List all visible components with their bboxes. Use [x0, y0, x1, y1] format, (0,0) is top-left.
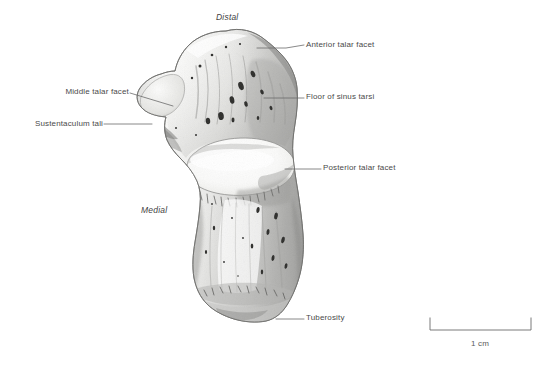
- scale-bar-label: 1 cm: [471, 340, 489, 348]
- label-sustentaculum-tali: Sustentaculum tali: [35, 120, 103, 128]
- orientation-label-distal: Distal: [216, 13, 238, 22]
- scale-bar-graphic: [430, 318, 531, 330]
- orientation-label-medial: Medial: [141, 206, 167, 215]
- label-posterior-talar-facet: Posterior talar facet: [323, 164, 396, 172]
- label-tuberosity: Tuberosity: [306, 314, 345, 322]
- calcaneus-illustration: [130, 25, 310, 330]
- anatomical-figure: Anterior talar facetFloor of sinus tarsi…: [0, 0, 551, 365]
- figure-canvas: [0, 0, 551, 365]
- label-middle-talar-facet: Middle talar facet: [65, 88, 129, 96]
- label-anterior-talar-facet: Anterior talar facet: [306, 41, 374, 49]
- scale-bar-line: [430, 318, 531, 330]
- label-floor-of-sinus-tarsi: Floor of sinus tarsi: [306, 93, 374, 101]
